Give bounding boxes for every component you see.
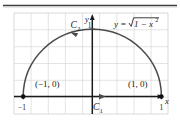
point-marker-left <box>21 94 26 99</box>
equation-lhs: y = <box>113 19 126 29</box>
axis-label-x: x <box>164 96 169 106</box>
label-c2-subscript: 2 <box>77 25 80 32</box>
point-marker-right <box>159 94 164 99</box>
label-equation: y = 1 − x 2 <box>113 17 159 29</box>
label-point-right: (1, 0) <box>128 79 148 89</box>
tick-label-x-plus1: 1 <box>160 103 164 112</box>
label-point-left: (−1, 0) <box>35 79 60 89</box>
tick-label-x-minus1: −1 <box>18 103 26 112</box>
axis-label-y: y <box>84 14 89 24</box>
equation-exponent: 2 <box>155 17 158 23</box>
label-c1-subscript: 1 <box>100 107 103 114</box>
equation-radicand: 1 − x <box>134 19 153 29</box>
semicircle-figure: C 2 C 1 y = 1 − x 2 (−1, 0) (1, 0) −1 1 … <box>0 0 180 122</box>
